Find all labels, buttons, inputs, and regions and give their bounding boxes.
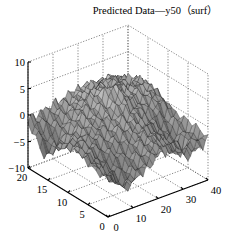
x-tick-label: 0 [113, 222, 118, 233]
chart-title: Predicted Data—y50（surf） [93, 5, 218, 16]
surface-plot: Predicted Data—y50（surf） −10−50510 05101… [0, 0, 234, 236]
x-tick-mark [106, 215, 108, 217]
y-tick-mark [48, 178, 50, 180]
x-tick-label: 40 [211, 185, 222, 196]
x-tick-mark [131, 206, 133, 208]
y-tick-label: 0 [99, 221, 104, 232]
y-tick-label: 10 [57, 197, 68, 208]
y-tick-label: 15 [37, 184, 48, 195]
x-tick-mark [206, 178, 208, 180]
z-tick-label: 0 [20, 110, 25, 121]
y-tick-labels: 05101520 [17, 166, 110, 232]
x-tick-label: 30 [186, 194, 197, 205]
x-tick-label: 10 [136, 213, 147, 224]
x-tick-mark [156, 197, 158, 199]
x-tick-mark [181, 187, 183, 189]
y-tick-label: 5 [79, 209, 84, 220]
y-tick-label: 20 [17, 172, 28, 183]
x-tick-label: 20 [161, 204, 172, 215]
surface-layer [28, 73, 208, 191]
z-tick-label: −5 [14, 137, 25, 148]
y-tick-mark [68, 191, 70, 193]
wall-grid-line [128, 25, 208, 74]
z-tick-label: 5 [20, 84, 25, 95]
z-tick-label: 10 [15, 57, 26, 68]
y-tick-mark [88, 203, 90, 205]
